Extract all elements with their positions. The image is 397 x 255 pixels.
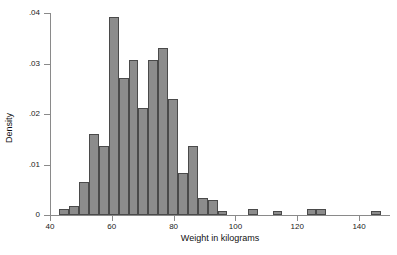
histogram-bar bbox=[69, 206, 79, 215]
histogram-bar bbox=[248, 209, 258, 215]
x-axis-title: Weight in kilograms bbox=[50, 234, 390, 244]
histogram-bar bbox=[89, 134, 99, 215]
histogram-bar bbox=[178, 173, 188, 215]
x-axis-tick bbox=[235, 216, 236, 221]
x-axis-tick-label: 100 bbox=[215, 223, 255, 231]
histogram-bar bbox=[307, 209, 317, 215]
histogram-bar bbox=[316, 209, 326, 215]
histogram-bar bbox=[119, 78, 129, 215]
x-axis-tick bbox=[174, 216, 175, 221]
y-axis-tick bbox=[44, 13, 50, 14]
histogram-bar bbox=[59, 209, 69, 215]
histogram-bar bbox=[79, 182, 89, 215]
histogram-bar bbox=[168, 99, 178, 215]
x-axis-tick-label: 40 bbox=[30, 223, 70, 231]
x-axis-tick-label: 80 bbox=[154, 223, 194, 231]
histogram-bar bbox=[198, 198, 208, 215]
y-axis-tick bbox=[44, 114, 50, 115]
histogram-bar bbox=[208, 200, 218, 215]
x-axis-tick-label: 120 bbox=[277, 223, 317, 231]
x-axis-tick bbox=[112, 216, 113, 221]
x-axis-line bbox=[50, 215, 390, 216]
histogram-bar bbox=[188, 146, 198, 215]
x-axis-tick bbox=[50, 216, 51, 221]
histogram-bar bbox=[109, 17, 119, 215]
x-axis-tick bbox=[297, 216, 298, 221]
plot-area bbox=[50, 13, 390, 215]
y-axis-title-text: Density bbox=[4, 112, 14, 142]
histogram-bar bbox=[218, 211, 228, 215]
y-axis-tick bbox=[44, 165, 50, 166]
x-axis-tick bbox=[359, 216, 360, 221]
histogram-bar bbox=[129, 60, 139, 215]
histogram-bar bbox=[148, 60, 158, 215]
histogram-bar bbox=[158, 48, 168, 215]
histogram-bar bbox=[99, 146, 109, 215]
histogram-figure: 0.01.02.03.04406080100120140 Weight in k… bbox=[0, 0, 397, 255]
x-axis-tick-label: 60 bbox=[92, 223, 132, 231]
histogram-bar bbox=[273, 211, 283, 215]
y-axis-title: Density bbox=[2, 0, 16, 255]
histogram-bar bbox=[371, 211, 381, 215]
y-axis-tick bbox=[44, 64, 50, 65]
x-axis-tick-label: 140 bbox=[339, 223, 379, 231]
histogram-bar bbox=[138, 108, 148, 215]
